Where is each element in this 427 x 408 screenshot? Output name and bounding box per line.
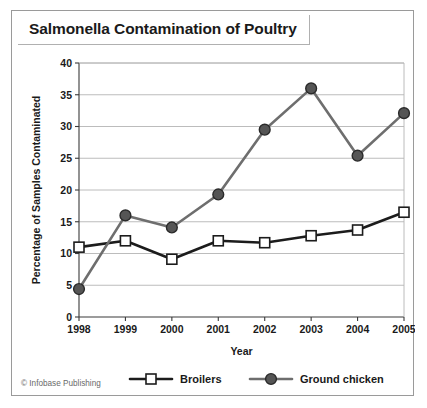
x-tick-label: 2003 <box>299 323 323 335</box>
data-point-ground-chicken <box>166 222 177 233</box>
data-point-broilers <box>260 238 270 248</box>
series-line-ground-chicken <box>79 88 404 289</box>
copyright-notice: © Infobase Publishing <box>21 379 101 388</box>
y-tick-label: 15 <box>60 216 72 228</box>
data-point-broilers <box>399 207 409 217</box>
data-point-broilers <box>167 254 177 264</box>
y-tick-label: 40 <box>60 57 72 69</box>
x-tick-label: 1998 <box>67 323 91 335</box>
data-point-broilers <box>306 231 316 241</box>
data-point-ground-chicken <box>352 150 363 161</box>
y-tick-label: 5 <box>66 279 72 291</box>
x-tick-label: 2001 <box>207 323 231 335</box>
y-tick-label: 35 <box>60 89 72 101</box>
data-point-ground-chicken <box>306 83 317 94</box>
chart-figure: Salmonella Contamination of Poultry 0510… <box>11 10 414 396</box>
data-point-broilers <box>213 236 223 246</box>
data-point-ground-chicken <box>74 284 85 295</box>
legend-marker-circle <box>266 374 277 385</box>
line-chart: 0510152025303540199819992000200120022003… <box>12 11 415 397</box>
data-point-broilers <box>353 225 363 235</box>
x-tick-label: 2005 <box>392 323 415 335</box>
x-tick-label: 1999 <box>114 323 138 335</box>
x-tick-label: 2000 <box>160 323 184 335</box>
y-tick-label: 20 <box>60 184 72 196</box>
data-point-ground-chicken <box>120 210 131 221</box>
y-axis-title: Percentage of Samples Contaminated <box>30 96 42 284</box>
data-point-ground-chicken <box>399 108 410 119</box>
data-point-ground-chicken <box>213 189 224 200</box>
x-tick-label: 2004 <box>346 323 370 335</box>
y-tick-label: 30 <box>60 120 72 132</box>
plot-area-wrapper: 0510152025303540199819992000200120022003… <box>12 11 415 397</box>
y-tick-label: 10 <box>60 247 72 259</box>
legend-item-broilers: Broilers <box>130 373 222 385</box>
x-tick-label: 2002 <box>253 323 277 335</box>
legend-item-ground-chicken: Ground chicken <box>250 373 384 385</box>
legend-marker-square <box>146 374 156 384</box>
legend-label: Ground chicken <box>300 373 384 385</box>
y-tick-label: 25 <box>60 152 72 164</box>
data-point-broilers <box>120 236 130 246</box>
legend-label: Broilers <box>180 373 222 385</box>
data-point-ground-chicken <box>259 124 270 135</box>
y-tick-label: 0 <box>66 311 72 323</box>
x-axis-title: Year <box>230 345 252 357</box>
data-point-broilers <box>74 242 84 252</box>
